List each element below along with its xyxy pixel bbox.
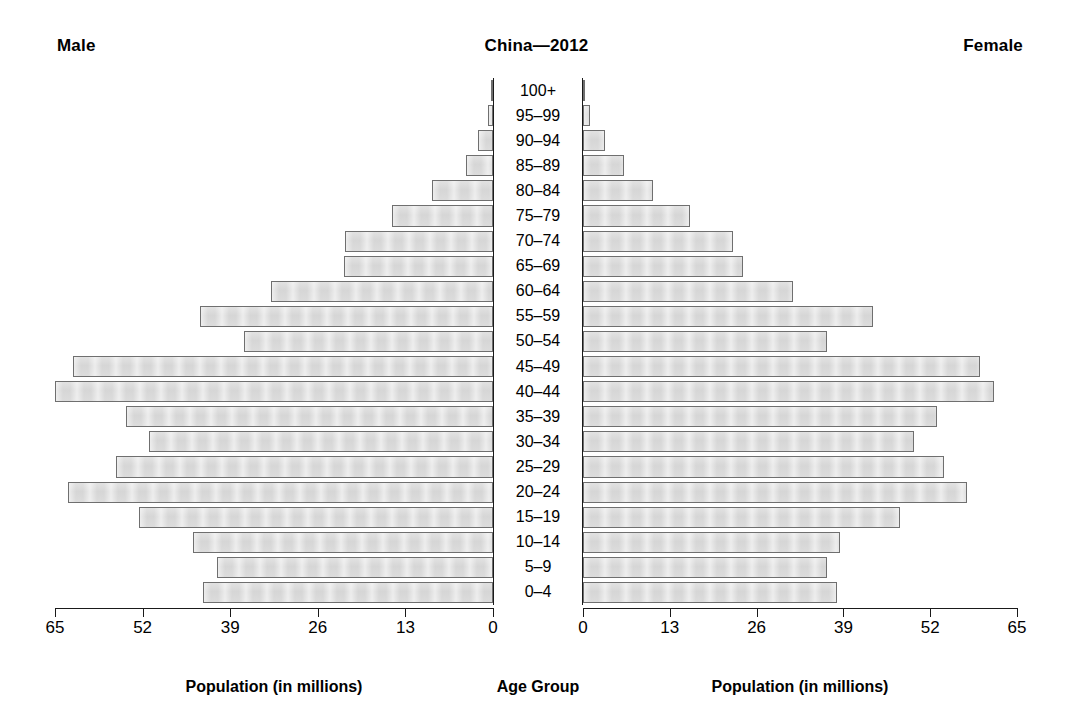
female-bar[interactable]: [583, 130, 605, 151]
axis-tick-label: 13: [396, 619, 415, 636]
female-bar[interactable]: [583, 456, 944, 477]
bar-row: [55, 78, 493, 103]
bar-row: [583, 254, 1017, 279]
bar-row: [583, 329, 1017, 354]
male-bar[interactable]: [73, 356, 493, 377]
axis-tick: [143, 608, 144, 617]
female-bar[interactable]: [583, 406, 937, 427]
male-bars-panel: [55, 78, 493, 605]
axis-tick-label: 26: [747, 619, 766, 636]
age-group-label: 60–64: [494, 279, 582, 304]
age-group-label: 70–74: [494, 229, 582, 254]
bar-row: [583, 404, 1017, 429]
male-bar[interactable]: [126, 406, 493, 427]
bar-row: [55, 329, 493, 354]
left-axis-title: Population (in millions): [186, 678, 363, 696]
age-group-label: 95–99: [494, 103, 582, 128]
female-bar[interactable]: [583, 507, 900, 528]
age-group-label: 35–39: [494, 404, 582, 429]
axis-tick-label: 0: [488, 619, 497, 636]
axis-tick: [843, 608, 844, 617]
female-bar[interactable]: [583, 331, 827, 352]
age-group-label: 10–14: [494, 530, 582, 555]
axis-tick-label: 52: [921, 619, 940, 636]
age-group-label: 50–54: [494, 329, 582, 354]
female-bar[interactable]: [583, 431, 914, 452]
axis-tick: [930, 608, 931, 617]
axis-tick-label: 39: [221, 619, 240, 636]
bar-row: [583, 203, 1017, 228]
male-x-axis-line: [55, 608, 493, 609]
female-bar[interactable]: [583, 80, 585, 101]
chart-title: China—2012: [0, 36, 1073, 56]
female-bar[interactable]: [583, 306, 873, 327]
male-bar[interactable]: [68, 482, 493, 503]
bar-row: [55, 103, 493, 128]
axis-tick-label: 26: [308, 619, 327, 636]
age-group-label: 90–94: [494, 128, 582, 153]
female-bar[interactable]: [583, 231, 733, 252]
female-bar[interactable]: [583, 105, 590, 126]
bar-row: [55, 203, 493, 228]
male-bar[interactable]: [193, 532, 493, 553]
bar-row: [583, 103, 1017, 128]
bar-row: [583, 530, 1017, 555]
age-group-axis: 100+95–9990–9485–8980–8475–7970–7465–696…: [494, 78, 582, 605]
age-group-label: 75–79: [494, 203, 582, 228]
bar-row: [583, 229, 1017, 254]
bar-row: [55, 178, 493, 203]
axis-tick: [670, 608, 671, 617]
female-bar[interactable]: [583, 532, 840, 553]
male-bar[interactable]: [116, 456, 493, 477]
female-bar[interactable]: [583, 557, 827, 578]
female-bar[interactable]: [583, 281, 793, 302]
age-group-label: 55–59: [494, 304, 582, 329]
female-bar[interactable]: [583, 256, 743, 277]
axis-tick-label: 0: [578, 619, 587, 636]
bar-row: [583, 178, 1017, 203]
male-bar[interactable]: [55, 381, 493, 402]
female-x-axis-line: [583, 608, 1017, 609]
age-group-label: 85–89: [494, 153, 582, 178]
male-bar[interactable]: [478, 130, 493, 151]
male-bar[interactable]: [466, 155, 493, 176]
center-axis-title: Age Group: [497, 678, 580, 696]
bar-row: [55, 254, 493, 279]
bar-row: [55, 379, 493, 404]
axis-tick-label: 52: [133, 619, 152, 636]
axis-tick: [55, 608, 56, 617]
female-axis-spine: [582, 78, 583, 605]
male-bar[interactable]: [200, 306, 493, 327]
axis-tick: [1017, 608, 1018, 617]
axis-tick: [757, 608, 758, 617]
bar-row: [583, 505, 1017, 530]
female-bar[interactable]: [583, 180, 653, 201]
axis-tick-label: 13: [660, 619, 679, 636]
age-group-label: 20–24: [494, 480, 582, 505]
right-axis-title: Population (in millions): [712, 678, 889, 696]
female-side-label: Female: [963, 36, 1023, 56]
male-bar[interactable]: [203, 582, 493, 603]
male-bar[interactable]: [217, 557, 493, 578]
population-pyramid-chart: Male China—2012 Female 100+95–9990–9485–…: [0, 0, 1073, 722]
male-bar[interactable]: [392, 205, 493, 226]
bar-row: [55, 229, 493, 254]
male-bar[interactable]: [139, 507, 493, 528]
male-bar[interactable]: [345, 231, 493, 252]
male-bar[interactable]: [432, 180, 493, 201]
female-bar[interactable]: [583, 582, 837, 603]
bar-row: [55, 153, 493, 178]
male-bar[interactable]: [344, 256, 493, 277]
bar-row: [55, 354, 493, 379]
male-bar[interactable]: [271, 281, 493, 302]
bar-row: [583, 555, 1017, 580]
age-group-label: 80–84: [494, 178, 582, 203]
male-bar[interactable]: [244, 331, 493, 352]
female-bar[interactable]: [583, 381, 994, 402]
female-bar[interactable]: [583, 482, 967, 503]
female-bar[interactable]: [583, 356, 980, 377]
male-bar[interactable]: [149, 431, 493, 452]
bar-row: [55, 404, 493, 429]
female-bar[interactable]: [583, 205, 690, 226]
female-bar[interactable]: [583, 155, 624, 176]
